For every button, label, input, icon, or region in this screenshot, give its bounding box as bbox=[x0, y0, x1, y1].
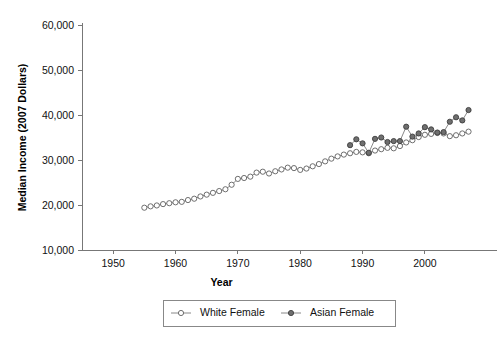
data-point bbox=[341, 152, 346, 157]
chart-series bbox=[142, 107, 471, 210]
data-point bbox=[241, 175, 246, 180]
data-point bbox=[142, 205, 147, 210]
data-point bbox=[347, 143, 352, 148]
data-point bbox=[173, 200, 178, 205]
chart-axes: 10,00020,00030,00040,00050,00060,0001950… bbox=[42, 19, 497, 269]
data-point bbox=[266, 171, 271, 176]
y-axis-tick-label: 20,000 bbox=[42, 199, 74, 211]
data-point bbox=[298, 167, 303, 172]
data-point bbox=[229, 182, 234, 187]
legend-marker-icon bbox=[288, 310, 293, 315]
chart-legend[interactable]: White FemaleAsian Female bbox=[163, 300, 395, 326]
series-line bbox=[350, 110, 468, 153]
x-axis-tick-label: 2000 bbox=[413, 257, 437, 269]
data-point bbox=[204, 192, 209, 197]
data-point bbox=[447, 134, 452, 139]
data-point bbox=[304, 166, 309, 171]
data-point bbox=[273, 169, 278, 174]
data-point bbox=[167, 201, 172, 206]
data-point bbox=[422, 125, 427, 130]
data-point bbox=[185, 197, 190, 202]
data-point bbox=[385, 139, 390, 144]
data-point bbox=[429, 127, 434, 132]
data-point bbox=[260, 169, 265, 174]
data-point bbox=[179, 199, 184, 204]
x-axis-tick-label: 1970 bbox=[226, 257, 250, 269]
income-line-chart: 10,00020,00030,00040,00050,00060,0001950… bbox=[0, 0, 500, 346]
data-point bbox=[372, 136, 377, 141]
data-point bbox=[404, 124, 409, 129]
data-point bbox=[347, 151, 352, 156]
data-point bbox=[154, 203, 159, 208]
data-point bbox=[379, 135, 384, 140]
data-point bbox=[372, 148, 377, 153]
data-point bbox=[248, 174, 253, 179]
data-point bbox=[404, 140, 409, 145]
data-point bbox=[441, 130, 446, 135]
data-point bbox=[397, 139, 402, 144]
data-point bbox=[291, 166, 296, 171]
legend-marker-icon bbox=[178, 310, 183, 315]
data-point bbox=[354, 149, 359, 154]
legend-item-label: Asian Female bbox=[310, 306, 374, 318]
data-point bbox=[379, 147, 384, 152]
x-axis-tick-label: 1950 bbox=[101, 257, 125, 269]
y-axis-tick-label: 10,000 bbox=[42, 244, 74, 256]
legend-item-label: White Female bbox=[200, 306, 265, 318]
data-point bbox=[416, 131, 421, 136]
data-point bbox=[360, 150, 365, 155]
data-point bbox=[453, 133, 458, 138]
data-point bbox=[391, 146, 396, 151]
data-point bbox=[466, 107, 471, 112]
data-point bbox=[210, 190, 215, 195]
x-axis-title: Year bbox=[210, 276, 232, 288]
data-point bbox=[198, 194, 203, 199]
data-point bbox=[385, 145, 390, 150]
series-white-female bbox=[142, 129, 471, 210]
x-axis-tick-label: 1990 bbox=[351, 257, 375, 269]
data-point bbox=[329, 156, 334, 161]
data-point bbox=[217, 188, 222, 193]
x-axis-tick-label: 1960 bbox=[164, 257, 188, 269]
data-point bbox=[279, 167, 284, 172]
chart-container: 10,00020,00030,00040,00050,00060,0001950… bbox=[0, 0, 500, 346]
data-point bbox=[192, 196, 197, 201]
data-point bbox=[148, 204, 153, 209]
y-axis-tick-label: 40,000 bbox=[42, 109, 74, 121]
data-point bbox=[335, 154, 340, 159]
series-asian-female bbox=[347, 107, 471, 155]
data-point bbox=[316, 161, 321, 166]
data-point bbox=[366, 150, 371, 155]
data-point bbox=[460, 118, 465, 123]
data-point bbox=[460, 131, 465, 136]
data-point bbox=[447, 119, 452, 124]
y-axis-tick-label: 30,000 bbox=[42, 154, 74, 166]
data-point bbox=[223, 187, 228, 192]
y-axis-title: Median Income (2007 Dollars) bbox=[16, 64, 28, 212]
data-point bbox=[397, 143, 402, 148]
data-point bbox=[254, 170, 259, 175]
data-point bbox=[354, 137, 359, 142]
data-point bbox=[360, 141, 365, 146]
data-point bbox=[466, 129, 471, 134]
data-point bbox=[391, 139, 396, 144]
data-point bbox=[285, 165, 290, 170]
data-point bbox=[323, 159, 328, 164]
data-point bbox=[410, 134, 415, 139]
data-point bbox=[235, 176, 240, 181]
data-point bbox=[310, 164, 315, 169]
data-point bbox=[435, 130, 440, 135]
x-axis-tick-label: 1980 bbox=[289, 257, 313, 269]
data-point bbox=[453, 115, 458, 120]
data-point bbox=[160, 202, 165, 207]
y-axis-tick-label: 60,000 bbox=[42, 19, 74, 31]
data-point bbox=[422, 132, 427, 137]
y-axis-tick-label: 50,000 bbox=[42, 64, 74, 76]
